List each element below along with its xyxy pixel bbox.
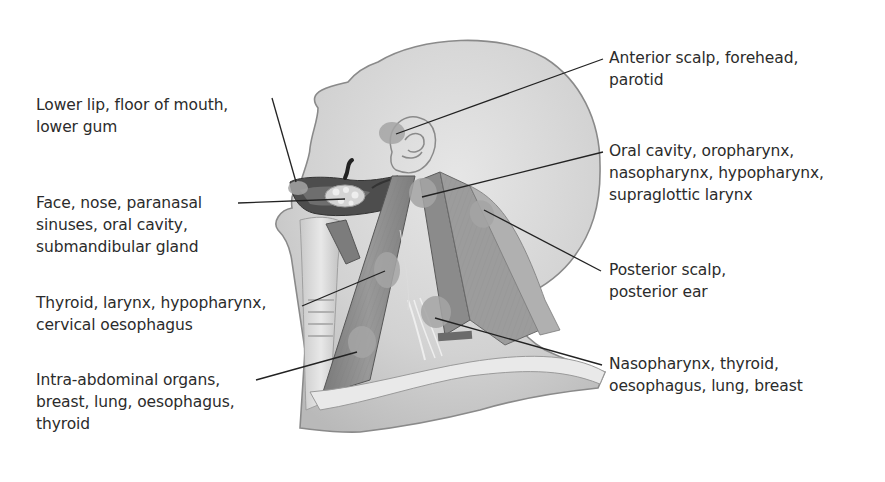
label-line: Thyroid, larynx, hypopharynx, (36, 292, 266, 314)
label-line: posterior ear (609, 281, 726, 303)
node-supraclavicular-right (421, 296, 451, 328)
label-line: sinuses, oral cavity, (36, 214, 202, 236)
label-anterior-scalp: Anterior scalp, forehead, parotid (609, 47, 798, 91)
node-submental (288, 181, 308, 195)
label-line: Anterior scalp, forehead, (609, 47, 798, 69)
label-line: submandibular gland (36, 236, 202, 258)
label-line: Oral cavity, oropharynx, (609, 140, 824, 162)
label-line: nasopharynx, hypopharynx, (609, 162, 824, 184)
label-line: Intra-abdominal organs, (36, 369, 234, 391)
label-intra-abdominal: Intra-abdominal organs, breast, lung, oe… (36, 369, 234, 435)
label-line: cervical oesophagus (36, 314, 266, 336)
label-face-nose: Face, nose, paranasal sinuses, oral cavi… (36, 192, 202, 258)
label-line: parotid (609, 69, 798, 91)
node-preauricular (379, 122, 405, 144)
label-line: Face, nose, paranasal (36, 192, 202, 214)
node-mid-jugular (374, 252, 400, 288)
label-line: Nasopharynx, thyroid, (609, 353, 803, 375)
label-thyroid-larynx: Thyroid, larynx, hypopharynx, cervical o… (36, 292, 266, 336)
label-line: lower gum (36, 116, 228, 138)
label-nasopharynx: Nasopharynx, thyroid, oesophagus, lung, … (609, 353, 803, 397)
label-line: Posterior scalp, (609, 259, 726, 281)
leader-lower-lip (272, 98, 296, 182)
label-line: oesophagus, lung, breast (609, 375, 803, 397)
label-line: supraglottic larynx (609, 184, 824, 206)
node-upper-jugular (409, 178, 437, 208)
head-neck-lymph-node-diagram: Lower lip, floor of mouth, lower gum Fac… (0, 0, 885, 482)
label-line: thyroid (36, 413, 234, 435)
label-posterior-scalp: Posterior scalp, posterior ear (609, 259, 726, 303)
label-line: breast, lung, oesophagus, (36, 391, 234, 413)
label-lower-lip: Lower lip, floor of mouth, lower gum (36, 94, 228, 138)
label-line: Lower lip, floor of mouth, (36, 94, 228, 116)
label-oral-cavity: Oral cavity, oropharynx, nasopharynx, hy… (609, 140, 824, 206)
